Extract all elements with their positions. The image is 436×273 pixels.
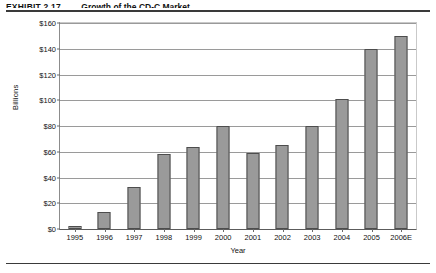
y-tick-label: $140 — [39, 44, 56, 53]
bar — [335, 99, 348, 229]
x-tick-mark — [401, 229, 402, 232]
chart-area: Billions $0$20$40$60$80$100$120$140$160 … — [0, 14, 436, 260]
x-tick-label: 2002 — [274, 233, 291, 242]
x-tick-label: 1999 — [185, 233, 202, 242]
y-tick-label: $40 — [43, 173, 56, 182]
bar — [395, 36, 408, 229]
x-axis-label: Year — [59, 246, 417, 255]
x-tick-mark — [253, 229, 254, 232]
gridline — [60, 229, 416, 230]
exhibit-number: EXHIBIT 2.17 — [6, 2, 61, 8]
x-tick-mark — [312, 229, 313, 232]
x-tick-label: 2004 — [333, 233, 350, 242]
exhibit-figure: EXHIBIT 2.17 Growth of the CD-C Market B… — [0, 0, 436, 273]
bar — [365, 49, 378, 229]
x-tick-label: 1997 — [126, 233, 143, 242]
plot-area: $0$20$40$60$80$100$120$140$160 199519961… — [59, 22, 417, 230]
y-tick-label: $0 — [48, 225, 56, 234]
exhibit-title: Growth of the CD-C Market — [81, 2, 190, 8]
x-tick-mark — [105, 229, 106, 232]
bar — [217, 126, 230, 229]
bar-slot — [119, 23, 149, 229]
x-tick-mark — [194, 229, 195, 232]
bar-slot — [149, 23, 179, 229]
bar — [157, 154, 170, 229]
bar — [128, 187, 141, 229]
x-tick-label: 2000 — [215, 233, 232, 242]
y-tick-label: $120 — [39, 70, 56, 79]
y-tick-label: $160 — [39, 19, 56, 28]
x-tick-label: 1998 — [155, 233, 172, 242]
x-tick-label: 2005 — [363, 233, 380, 242]
exhibit-title-row: EXHIBIT 2.17 Growth of the CD-C Market — [6, 0, 430, 8]
bar-slot — [238, 23, 268, 229]
x-tick-label: 2006E — [390, 233, 412, 242]
y-axis-label: Billions — [11, 85, 20, 110]
bottom-rule — [6, 263, 430, 265]
bar-slot — [357, 23, 387, 229]
bar-slot — [208, 23, 238, 229]
bar-slot — [327, 23, 357, 229]
x-tick-mark — [134, 229, 135, 232]
bar — [187, 147, 200, 229]
x-tick-label: 2003 — [304, 233, 321, 242]
x-tick-mark — [75, 229, 76, 232]
bar-slot — [179, 23, 209, 229]
y-tick-label: $60 — [43, 147, 56, 156]
y-tick-label: $100 — [39, 96, 56, 105]
x-tick-mark — [372, 229, 373, 232]
x-tick-mark — [223, 229, 224, 232]
x-tick-mark — [342, 229, 343, 232]
bar-slot — [386, 23, 416, 229]
x-tick-label: 1995 — [66, 233, 83, 242]
bar — [98, 212, 111, 229]
bar-slot — [297, 23, 327, 229]
y-tick-label: $80 — [43, 122, 56, 131]
bar-slot — [60, 23, 90, 229]
x-tick-label: 1996 — [96, 233, 113, 242]
bar — [246, 153, 259, 229]
bar-slot — [268, 23, 298, 229]
x-tick-label: 2001 — [244, 233, 261, 242]
bar — [306, 126, 319, 229]
bar-series — [60, 23, 416, 229]
top-rule — [6, 10, 430, 12]
bar-slot — [90, 23, 120, 229]
y-tick-label: $20 — [43, 199, 56, 208]
x-tick-mark — [283, 229, 284, 232]
x-tick-mark — [164, 229, 165, 232]
bar — [276, 145, 289, 229]
